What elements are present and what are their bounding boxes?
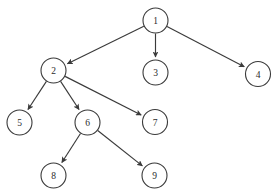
edges-layer bbox=[28, 26, 244, 166]
node-label-4: 4 bbox=[256, 70, 261, 80]
edge-6-to-9 bbox=[98, 131, 143, 166]
graph-node-1[interactable]: 1 bbox=[143, 8, 168, 33]
graph-node-9[interactable]: 9 bbox=[142, 163, 167, 188]
graph-node-4[interactable]: 4 bbox=[246, 62, 271, 87]
node-label-3: 3 bbox=[153, 68, 158, 78]
node-label-9: 9 bbox=[152, 171, 157, 181]
edge-1-to-2 bbox=[67, 26, 143, 63]
edge-2-to-6 bbox=[61, 81, 79, 109]
graph-node-7[interactable]: 7 bbox=[143, 110, 168, 135]
edge-2-to-5 bbox=[28, 81, 46, 109]
graph-node-2[interactable]: 2 bbox=[41, 58, 66, 83]
edge-1-to-4 bbox=[167, 27, 244, 67]
graph-node-5[interactable]: 5 bbox=[7, 110, 32, 135]
edge-6-to-8 bbox=[62, 133, 81, 162]
node-label-7: 7 bbox=[153, 118, 158, 128]
node-label-1: 1 bbox=[153, 16, 158, 26]
node-label-8: 8 bbox=[51, 171, 56, 181]
graph-node-3[interactable]: 3 bbox=[143, 60, 168, 85]
graph-canvas: 123456789 bbox=[0, 0, 273, 196]
node-label-2: 2 bbox=[51, 66, 56, 76]
edge-2-to-7 bbox=[65, 76, 141, 115]
node-label-5: 5 bbox=[17, 118, 22, 128]
graph-node-6[interactable]: 6 bbox=[75, 110, 100, 135]
node-label-6: 6 bbox=[85, 118, 90, 128]
nodes-layer: 123456789 bbox=[7, 8, 271, 188]
graph-node-8[interactable]: 8 bbox=[41, 163, 66, 188]
